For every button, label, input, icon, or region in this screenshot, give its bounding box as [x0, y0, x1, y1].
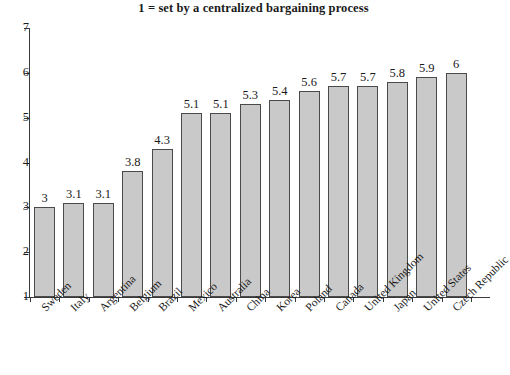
- bar: [357, 86, 378, 297]
- x-tick-mark: [30, 297, 31, 302]
- y-tick-label: 5: [9, 111, 29, 123]
- y-axis-line: [29, 28, 30, 298]
- bar-value-label: 3.1: [84, 188, 123, 201]
- bar: [299, 91, 320, 297]
- y-tick-label: 2: [9, 245, 29, 257]
- y-tick-label: 7: [9, 21, 29, 33]
- bar: [152, 149, 173, 297]
- bar: [181, 113, 202, 297]
- bar: [328, 86, 349, 297]
- y-tick-label: 1: [9, 290, 29, 302]
- bar: [93, 203, 114, 297]
- bar: [34, 207, 55, 297]
- bar-value-label: 4.3: [143, 134, 182, 147]
- bar-value-label: 6: [437, 58, 476, 71]
- y-tick-label: 4: [9, 156, 29, 168]
- bar-value-label: 3.8: [113, 156, 152, 169]
- bar: [240, 104, 261, 297]
- bar: [210, 113, 231, 297]
- bar: [269, 100, 290, 297]
- y-tick-label: 6: [9, 66, 29, 78]
